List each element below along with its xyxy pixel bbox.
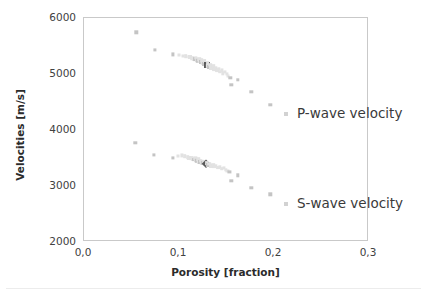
data-point: [153, 153, 156, 156]
bottom-divider: [6, 288, 421, 289]
data-point: [249, 186, 252, 189]
y-tick-label: 6000: [28, 12, 76, 23]
x-tick-label: 0,2: [248, 246, 298, 258]
x-tick-label: 0,3: [343, 246, 393, 258]
legend-marker-p-wave-icon: [284, 112, 288, 116]
legend-label-p-wave: P-wave velocity: [297, 106, 402, 121]
data-point: [268, 192, 271, 195]
data-point: [229, 76, 232, 79]
legend-item-s-wave[interactable]: S-wave velocity: [284, 196, 403, 211]
data-point: [177, 155, 180, 158]
data-point: [154, 49, 157, 52]
data-point: [172, 157, 175, 160]
data-point: [236, 78, 239, 81]
data-point: [249, 90, 252, 93]
x-axis-label: Porosity [fraction]: [83, 266, 368, 278]
chart-figure: Velocities [m/s] 20003000400050006000 0,…: [0, 0, 427, 291]
y-tick-label: 3000: [28, 180, 76, 191]
legend-marker-s-wave-icon: [284, 202, 288, 206]
data-point: [172, 53, 175, 56]
data-point: [230, 179, 233, 182]
legend-item-p-wave[interactable]: P-wave velocity: [284, 106, 402, 121]
data-point: [178, 53, 181, 56]
data-point: [228, 170, 231, 173]
data-point: [134, 141, 137, 144]
y-tick-label: 4000: [28, 124, 76, 135]
data-point: [268, 103, 271, 106]
y-tick-label: 5000: [28, 68, 76, 79]
x-tick-label: 0,1: [153, 246, 203, 258]
y-tick-label: 2000: [28, 236, 76, 247]
data-point: [135, 31, 138, 34]
legend-label-s-wave: S-wave velocity: [297, 196, 403, 211]
x-tick-label: 0,0: [58, 246, 108, 258]
data-point: [230, 83, 233, 86]
data-point: [236, 174, 239, 177]
